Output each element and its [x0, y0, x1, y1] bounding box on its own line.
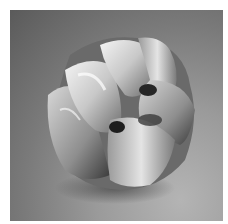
silver-bangle-illustration [10, 10, 223, 221]
photograph [10, 10, 223, 221]
